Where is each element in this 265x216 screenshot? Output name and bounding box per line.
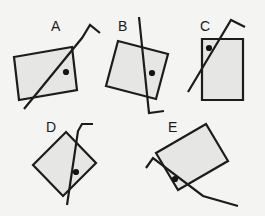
dot-marker-e [172, 176, 178, 182]
figure-label-c: C [200, 18, 210, 34]
canvas-background [0, 0, 265, 216]
dot-marker-d [73, 169, 79, 175]
dot-marker-a [63, 69, 69, 75]
figure-label-a: A [51, 18, 61, 34]
figure-label-b: B [118, 18, 127, 34]
dot-marker-b [149, 70, 155, 76]
figure-label-d: D [46, 119, 56, 135]
figure-label-e: E [168, 119, 177, 135]
figure-canvas: ABCDE [0, 0, 265, 216]
dot-marker-c [206, 45, 212, 51]
figure-page: ABCDE [0, 0, 265, 216]
